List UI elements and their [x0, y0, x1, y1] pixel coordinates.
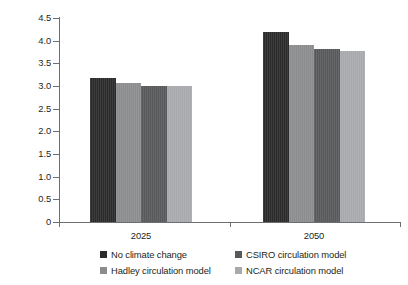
- x-axis-tick: [59, 222, 60, 227]
- legend-item[interactable]: No climate change: [100, 247, 187, 261]
- y-axis-tick-label: 1.5: [3, 149, 51, 158]
- legend-item[interactable]: Hadley circulation model: [100, 263, 211, 277]
- bar: [167, 86, 193, 222]
- bar: [116, 83, 142, 222]
- y-axis-tick-label-wrap: 3.5: [0, 58, 51, 68]
- y-axis-tick-label: 0: [3, 217, 51, 226]
- y-axis-tick-label-wrap: 2.0: [0, 126, 51, 136]
- legend-swatch-icon: [100, 251, 107, 258]
- y-axis-tick-label: 4.5: [3, 13, 51, 22]
- y-axis-tick-label-wrap: 0: [0, 217, 51, 227]
- legend-swatch-icon: [235, 251, 242, 258]
- y-axis-tick-label-wrap: 4.0: [0, 36, 51, 46]
- y-axis-tick-label-wrap: 3.0: [0, 81, 51, 91]
- bar: [340, 51, 366, 222]
- x-axis-tick: [230, 222, 231, 227]
- y-axis-tick-label: 2.0: [3, 126, 51, 135]
- legend-item-label: No climate change: [111, 249, 187, 260]
- bar: [141, 86, 167, 222]
- y-axis-tick-label: 3.5: [3, 58, 51, 67]
- bar-chart: Metric tons per ha 00.51.01.52.02.53.03.…: [0, 0, 408, 285]
- chart-legend: No climate changeCSIRO circulation model…: [100, 247, 390, 281]
- x-axis-category-label: 2050: [284, 230, 344, 241]
- legend-item-label: Hadley circulation model: [111, 265, 211, 276]
- y-axis-tick-label: 4.0: [3, 36, 51, 45]
- y-axis-tick-label: 2.5: [3, 104, 51, 113]
- legend-item[interactable]: CSIRO circulation model: [235, 247, 346, 261]
- x-axis-tick: [400, 222, 401, 227]
- y-axis-tick-label-wrap: 1.5: [0, 149, 51, 159]
- y-axis-tick-label: 3.0: [3, 81, 51, 90]
- x-axis-category-label: 2025: [111, 230, 171, 241]
- legend-item-label: CSIRO circulation model: [246, 249, 346, 260]
- legend-swatch-icon: [100, 267, 107, 274]
- legend-item-label: NCAR circulation model: [246, 265, 343, 276]
- y-axis-tick-label-wrap: 4.5: [0, 13, 51, 23]
- y-axis-tick-label: 0.5: [3, 194, 51, 203]
- y-axis-tick-label: 1.0: [3, 172, 51, 181]
- bar: [263, 32, 289, 222]
- legend-swatch-icon: [235, 267, 242, 274]
- bar: [289, 45, 315, 222]
- bars-layer: [59, 18, 400, 222]
- y-axis-tick-label-wrap: 1.0: [0, 172, 51, 182]
- y-axis-tick-label-wrap: 0.5: [0, 194, 51, 204]
- bar: [90, 78, 116, 222]
- legend-item[interactable]: NCAR circulation model: [235, 263, 343, 277]
- y-axis-tick-label-wrap: 2.5: [0, 104, 51, 114]
- bar: [314, 49, 340, 222]
